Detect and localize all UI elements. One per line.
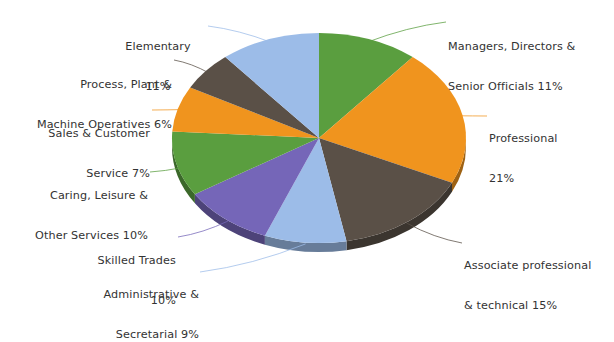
callout-line-1: Elementary (96, 40, 220, 53)
callout-line-2: Senior Officials 11% (448, 80, 575, 93)
callout-line-2: 10% (20, 294, 176, 307)
callout-line-1: Managers, Directors & (448, 40, 575, 53)
callout-professional: Professional 21% (489, 105, 558, 212)
callout-line-2: Other Services 10% (4, 229, 148, 242)
callout-line-2: Service 7% (4, 167, 150, 180)
callout-associate-professional-technical: Associate professional & technical 15% (464, 232, 591, 339)
callout-elementary: Elementary 11% (96, 13, 220, 120)
callout-line-1: Associate professional (464, 259, 591, 272)
leader-line-1 (367, 22, 446, 42)
callout-line-2: 21% (489, 172, 558, 185)
callout-line-2: 11% (96, 80, 220, 93)
callout-line-2: & technical 15% (464, 299, 591, 312)
callout-line-1: Professional (489, 132, 558, 145)
